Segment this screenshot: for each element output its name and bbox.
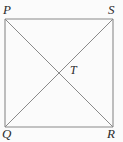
vertex-label-q: Q <box>2 127 11 140</box>
vertex-label-r: R <box>107 127 115 140</box>
intersection-label-t: T <box>70 64 77 76</box>
figure-canvas <box>0 0 123 142</box>
vertex-label-p: P <box>3 3 11 16</box>
geometry-figure: P S Q R T <box>0 0 123 142</box>
vertex-label-s: S <box>108 3 115 16</box>
